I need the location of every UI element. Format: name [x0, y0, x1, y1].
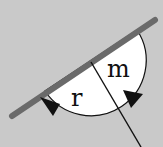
label-r: r — [71, 84, 83, 112]
angle-diagram-svg: r m — [0, 0, 163, 147]
label-m: m — [107, 55, 130, 83]
diagram: r m — [0, 0, 163, 147]
